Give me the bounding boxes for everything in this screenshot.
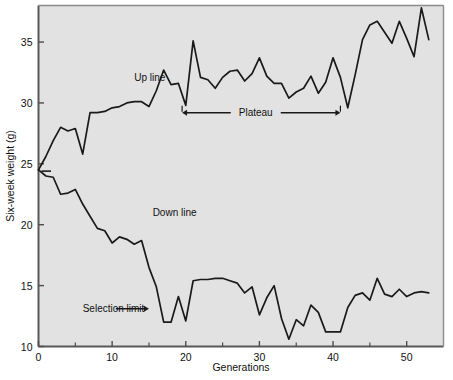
chart-figure: 01020304050 101520253035 Up line Down li… [0,0,453,380]
y-tick-label: 20 [21,219,33,231]
x-axis-title: Generations [212,361,269,373]
x-tick-label: 20 [180,351,192,363]
y-tick-label: 25 [21,158,33,170]
y-axis-title: Six-week weight (g) [4,130,16,222]
x-tick-label: 10 [106,351,118,363]
y-tick-label: 10 [21,341,33,353]
y-tick-label: 30 [21,97,33,109]
plateau-label: Plateau [239,107,273,118]
selection-limit-label: Selection limit [83,303,145,314]
up-line-label: Up line [134,72,166,83]
selection-experiment-line-chart: 01020304050 101520253035 Up line Down li… [0,0,453,380]
plot-area-background [38,5,444,347]
y-tick-label: 35 [21,36,33,48]
x-tick-label: 40 [327,351,339,363]
x-tick-label: 0 [36,351,42,363]
y-tick-label: 15 [21,280,33,292]
x-tick-label: 50 [401,351,413,363]
down-line-label: Down line [153,207,197,218]
